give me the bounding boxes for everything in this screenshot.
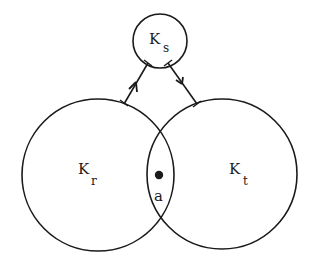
label-ks: K s	[149, 30, 169, 55]
svg-text:t: t	[243, 174, 248, 188]
circle-kt	[147, 99, 297, 249]
svg-text:r: r	[91, 174, 97, 188]
circle-kr	[22, 99, 174, 251]
point-a-label: a	[154, 187, 163, 205]
arrow-kr-to-ks	[120, 60, 152, 106]
point-a-dot	[155, 171, 163, 179]
svg-text:s: s	[163, 41, 169, 55]
arrowhead-up-icon	[129, 82, 137, 92]
label-kr: K r	[78, 160, 97, 188]
svg-text:K: K	[78, 160, 90, 178]
venn-diagram: a K s K r K t	[0, 0, 313, 268]
svg-text:K: K	[229, 160, 241, 178]
svg-text:K: K	[149, 30, 161, 48]
label-kt: K t	[229, 160, 248, 188]
